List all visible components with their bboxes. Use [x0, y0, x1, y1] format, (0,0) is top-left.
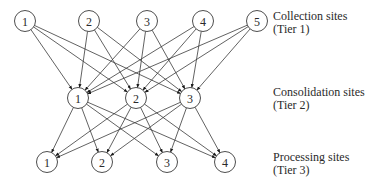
- tier2-node-2: 2: [126, 88, 147, 109]
- tier3-node-3: 3: [157, 152, 178, 173]
- node-label: 3: [144, 15, 150, 29]
- node-label: 1: [22, 15, 28, 29]
- tier1-node-1: 1: [15, 11, 36, 32]
- edge-tier2-2-to-tier3-1: [56, 104, 128, 156]
- node-label: 2: [86, 15, 92, 29]
- tier1-node-4: 4: [193, 11, 214, 32]
- nodes-layer: 123451231234: [15, 11, 268, 173]
- tier1-label: Collection sites(Tier 1): [273, 10, 347, 36]
- tier2-label: Consolidation sites(Tier 2): [273, 86, 365, 112]
- edge-tier2-3-to-tier3-4: [195, 107, 220, 153]
- edge-tier1-3-to-tier2-1: [85, 29, 140, 90]
- edge-tier2-2-to-tier3-4: [145, 104, 217, 156]
- node-label: 3: [187, 92, 193, 106]
- tier1-node-2: 2: [79, 11, 100, 32]
- node-label: 4: [222, 156, 228, 170]
- tier-number: (Tier 3): [273, 164, 349, 177]
- edge-tier1-3-to-tier2-2: [137, 31, 145, 87]
- edge-tier1-5-to-tier2-3: [197, 29, 250, 90]
- node-label: 5: [254, 15, 260, 29]
- tier3-node-2: 2: [92, 152, 113, 173]
- edge-tier1-4-to-tier2-2: [143, 29, 196, 90]
- tier-number: (Tier 1): [273, 23, 347, 36]
- tier3-node-1: 1: [37, 152, 58, 173]
- tier2-node-3: 3: [180, 88, 201, 109]
- tier1-node-3: 3: [137, 11, 158, 32]
- edge-tier1-4-to-tier2-1: [87, 27, 194, 93]
- node-label: 1: [75, 92, 81, 106]
- edge-tier1-5-to-tier2-2: [145, 27, 248, 93]
- edge-tier2-3-to-tier3-3: [171, 108, 187, 152]
- tier2-node-1: 1: [68, 88, 89, 109]
- tier-number: (Tier 2): [273, 99, 365, 112]
- node-label: 1: [44, 156, 50, 170]
- tier1-node-5: 5: [247, 11, 268, 32]
- node-label: 3: [164, 156, 170, 170]
- tier3-label: Processing sites(Tier 3): [273, 151, 349, 177]
- node-label: 2: [99, 156, 105, 170]
- edge-tier2-3-to-tier3-2: [110, 104, 181, 156]
- node-label: 2: [133, 92, 139, 106]
- edge-tier2-1-to-tier3-3: [87, 104, 159, 156]
- tier3-node-4: 4: [215, 152, 236, 173]
- node-label: 4: [200, 15, 206, 29]
- edge-tier1-1-to-tier2-1: [31, 30, 72, 90]
